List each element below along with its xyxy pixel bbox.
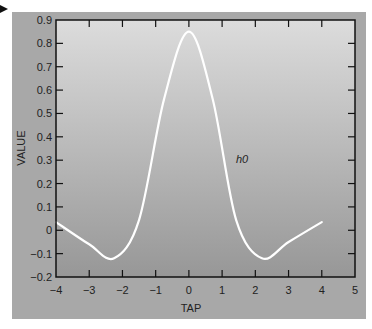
y-axis-title: VALUE	[15, 130, 27, 165]
tick-label: 0.8	[37, 37, 52, 49]
tick-label: 1	[219, 284, 225, 296]
tick-label: 0.6	[37, 84, 52, 96]
tick-label: 0.7	[37, 61, 52, 73]
tick-label: 0.5	[37, 107, 52, 119]
tick-label: 0	[186, 284, 192, 296]
tick-label: 0.1	[37, 201, 52, 213]
line-chart: −4−3−2−1012345−0.2−0.100.10.20.30.40.50.…	[0, 0, 372, 329]
tick-label: 5	[352, 284, 358, 296]
tick-label: −4	[50, 284, 63, 296]
tick-label: 0.9	[37, 14, 52, 26]
tick-label: −0.2	[30, 271, 52, 283]
series-label-h0: h0	[236, 153, 249, 165]
tick-label: 0	[46, 224, 52, 236]
tick-label: −3	[83, 284, 96, 296]
tick-label: −0.1	[30, 248, 52, 260]
plot-area	[56, 20, 355, 277]
tick-label: 0.2	[37, 178, 52, 190]
tick-label: 3	[285, 284, 291, 296]
tick-label: 0.3	[37, 154, 52, 166]
tick-label: 4	[319, 284, 325, 296]
tick-label: 2	[252, 284, 258, 296]
tick-label: 0.4	[37, 131, 52, 143]
x-axis-title: TAP	[181, 302, 202, 314]
tick-label: −1	[149, 284, 162, 296]
tick-label: −2	[116, 284, 129, 296]
